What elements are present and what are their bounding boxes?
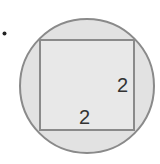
side-label-bottom: 2	[79, 106, 90, 128]
side-label-right: 2	[117, 74, 128, 96]
bullet-dot	[3, 32, 7, 36]
inscribed-square-diagram: 2 2	[0, 0, 160, 164]
